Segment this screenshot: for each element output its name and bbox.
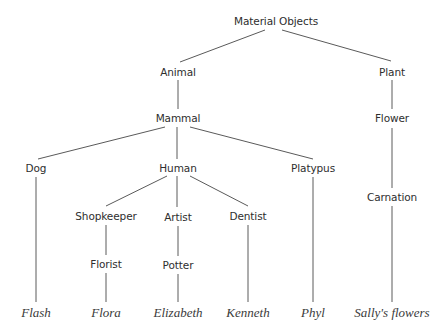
edge-mammal-to-dog	[38, 127, 165, 159]
node-artist: Artist	[164, 212, 192, 223]
edge-human-to-shopkeeper	[106, 176, 167, 206]
node-shopkeeper: Shopkeeper	[75, 211, 136, 222]
node-kenneth: Kenneth	[226, 306, 269, 319]
node-mammal: Mammal	[156, 113, 201, 124]
node-flash: Flash	[21, 306, 51, 319]
edge-layer	[0, 0, 448, 335]
node-flower: Flower	[375, 113, 409, 124]
node-sallys-flowers: Sally's flowers	[354, 306, 429, 319]
node-dog: Dog	[26, 163, 47, 174]
node-phyl: Phyl	[301, 306, 325, 319]
node-elizabeth: Elizabeth	[153, 306, 202, 319]
node-dentist: Dentist	[229, 211, 266, 222]
node-flora: Flora	[91, 306, 121, 319]
node-carnation: Carnation	[367, 192, 417, 203]
taxonomy-diagram: Material ObjectsAnimalPlantMammalFlowerD…	[0, 0, 448, 335]
edge-material-objects-to-plant	[282, 30, 391, 61]
node-animal: Animal	[160, 67, 196, 78]
node-florist: Florist	[90, 259, 122, 270]
edge-mammal-to-platypus	[190, 127, 313, 159]
node-human: Human	[159, 163, 196, 174]
node-material-objects: Material Objects	[234, 16, 318, 27]
edge-material-objects-to-animal	[180, 30, 265, 62]
node-potter: Potter	[163, 260, 194, 271]
edge-human-to-dentist	[190, 176, 248, 206]
node-plant: Plant	[379, 67, 405, 78]
node-platypus: Platypus	[291, 163, 335, 174]
